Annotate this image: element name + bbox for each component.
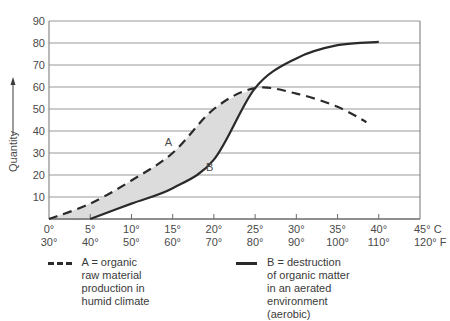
y-axis-title: Quantity: [7, 77, 19, 172]
svg-text:100°: 100°: [326, 236, 349, 248]
y-axis-label: Quantity: [7, 131, 19, 172]
svg-text:20: 20: [33, 169, 45, 181]
svg-text:30°: 30°: [288, 223, 305, 235]
dashed-line-swatch: [48, 262, 72, 265]
svg-text:45° C: 45° C: [414, 223, 442, 235]
svg-text:90: 90: [33, 15, 45, 27]
svg-text:80°: 80°: [247, 236, 264, 248]
svg-text:110°: 110°: [368, 236, 390, 248]
svg-text:10°: 10°: [123, 223, 140, 235]
svg-text:50°: 50°: [123, 236, 140, 248]
svg-text:40°: 40°: [370, 223, 387, 235]
svg-text:70: 70: [33, 59, 45, 71]
svg-text:5°: 5°: [85, 223, 96, 235]
svg-text:A: A: [165, 136, 173, 148]
svg-text:30: 30: [33, 147, 45, 159]
arrow-head-icon: [11, 77, 16, 85]
svg-text:35°: 35°: [329, 223, 346, 235]
svg-text:15°: 15°: [164, 223, 181, 235]
svg-text:60: 60: [33, 81, 45, 93]
svg-text:0°: 0°: [44, 223, 55, 235]
legend-a-text: A = organic raw material production in h…: [82, 256, 154, 308]
svg-text:10: 10: [33, 191, 45, 203]
svg-text:30°: 30°: [41, 236, 58, 248]
legend-b-text: B = destruction of organic matter in an …: [267, 256, 350, 321]
svg-text:50: 50: [33, 103, 45, 115]
svg-text:25°: 25°: [247, 223, 264, 235]
svg-text:70°: 70°: [206, 236, 223, 248]
legend-item-b: B = destruction of organic matter in an …: [236, 256, 351, 321]
svg-text:60°: 60°: [164, 236, 181, 248]
svg-text:120° F: 120° F: [414, 236, 447, 248]
svg-text:40: 40: [33, 125, 45, 137]
solid-line-swatch: [236, 262, 257, 265]
svg-text:B: B: [206, 161, 213, 173]
svg-text:40°: 40°: [82, 236, 99, 248]
svg-text:20°: 20°: [206, 223, 223, 235]
shaded-area-between-curves: [49, 88, 255, 220]
svg-text:90°: 90°: [288, 236, 305, 248]
svg-text:80: 80: [33, 37, 45, 49]
legend-item-a: A = organic raw material production in h…: [48, 256, 153, 308]
